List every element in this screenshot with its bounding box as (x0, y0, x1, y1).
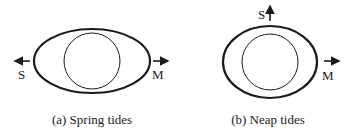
earth-circle (242, 34, 298, 90)
panel-spring-tides: S M (a) Spring tides (15, 29, 168, 127)
panel-neap-tides: S M (b) Neap tides (223, 6, 339, 127)
moon-label: M (152, 67, 164, 82)
sun-label: S (258, 7, 265, 22)
caption-neap-tides: (b) Neap tides (231, 112, 305, 127)
tides-diagram: S M (a) Spring tides S M (b) Neap tides (0, 0, 354, 136)
sun-label: S (18, 67, 25, 82)
caption-spring-tides: (a) Spring tides (52, 112, 132, 127)
earth-circle (64, 33, 120, 89)
moon-label: M (322, 68, 334, 83)
tidal-bulge-ellipse (223, 26, 317, 98)
tidal-bulge-ellipse (34, 29, 150, 93)
